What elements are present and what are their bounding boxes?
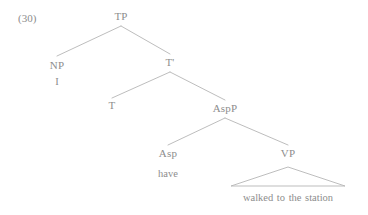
node-t: T [109, 100, 116, 111]
terminal-vp-phrase: walked to the station [243, 193, 333, 204]
tree-branch-lines [0, 0, 368, 215]
node-aspp: AspP [213, 103, 238, 114]
tbar-to-aspp [170, 72, 225, 100]
node-vp: VP [281, 148, 295, 159]
tp-to-np [57, 26, 121, 56]
node-np: NP [50, 60, 64, 71]
terminal-asp: have [158, 169, 178, 180]
node-asp: Asp [159, 148, 177, 159]
tbar-to-t [112, 72, 170, 98]
syntax-tree-figure: (30) TP NP I T' T AspP Asp have VP walke… [0, 0, 368, 215]
node-tp: TP [114, 11, 127, 22]
aspp-to-vp [225, 118, 288, 145]
vp-triangle-icon [231, 167, 345, 186]
aspp-to-asp [168, 118, 225, 145]
example-number: (30) [18, 13, 36, 24]
node-tbar: T' [165, 57, 174, 68]
tp-to-tbar [121, 26, 170, 54]
terminal-np: I [55, 77, 59, 88]
